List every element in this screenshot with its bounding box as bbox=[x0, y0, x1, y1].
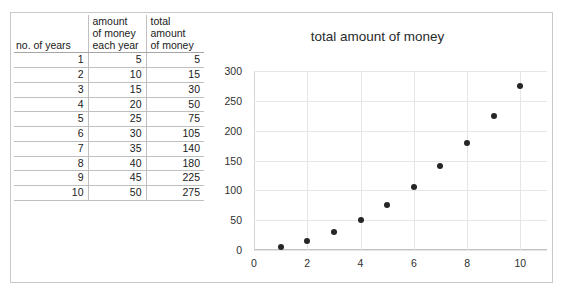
cell-total-amount: 50 bbox=[146, 97, 204, 112]
cell-amount-each-year: 15 bbox=[88, 82, 146, 97]
data-point bbox=[411, 184, 417, 190]
cell-years: 3 bbox=[14, 82, 88, 97]
x-axis-tick-label: 4 bbox=[358, 257, 364, 269]
y-axis-tick-label: 200 bbox=[208, 125, 242, 137]
cell-total-amount: 275 bbox=[146, 186, 204, 201]
gridline-horizontal bbox=[254, 250, 547, 251]
cell-total-amount: 180 bbox=[146, 156, 204, 171]
chart-title: total amount of money bbox=[204, 29, 551, 44]
scatter-chart: total amount of money 050100150200250300… bbox=[204, 15, 551, 282]
cell-amount-each-year: 5 bbox=[88, 53, 146, 68]
cell-total-amount: 140 bbox=[146, 141, 204, 156]
cell-years: 5 bbox=[14, 112, 88, 127]
header-line: total bbox=[151, 16, 201, 28]
cell-years: 10 bbox=[14, 186, 88, 201]
table-row: 9 45 225 bbox=[14, 171, 204, 186]
cell-amount-each-year: 35 bbox=[88, 141, 146, 156]
header-line: each year bbox=[93, 40, 142, 52]
y-axis-tick-label: 250 bbox=[208, 95, 242, 107]
cell-years: 2 bbox=[14, 68, 88, 83]
gridline-horizontal bbox=[254, 161, 547, 162]
x-axis-tick-label: 10 bbox=[515, 257, 527, 269]
gridline-horizontal bbox=[254, 220, 547, 221]
gridline-horizontal bbox=[254, 131, 547, 132]
y-axis-tick-label: 300 bbox=[208, 65, 242, 77]
table-header-row: no. of years amount of money each year t… bbox=[14, 15, 204, 53]
x-axis-tick-label: 0 bbox=[251, 257, 257, 269]
plot-area: 0501001502002503000246810 bbox=[254, 71, 547, 250]
cell-years: 9 bbox=[14, 171, 88, 186]
gridline-vertical bbox=[307, 71, 308, 250]
cell-years: 8 bbox=[14, 156, 88, 171]
data-point bbox=[517, 83, 523, 89]
x-axis-tick-label: 2 bbox=[304, 257, 310, 269]
cell-years: 4 bbox=[14, 97, 88, 112]
data-point bbox=[491, 113, 497, 119]
gridline-horizontal bbox=[254, 71, 547, 72]
table-row: 7 35 140 bbox=[14, 141, 204, 156]
table-row: 8 40 180 bbox=[14, 156, 204, 171]
cell-amount-each-year: 50 bbox=[88, 186, 146, 201]
cell-amount-each-year: 45 bbox=[88, 171, 146, 186]
cell-total-amount: 30 bbox=[146, 82, 204, 97]
gridline-vertical bbox=[414, 71, 415, 250]
header-line: of money bbox=[151, 40, 201, 52]
table-row: 4 20 50 bbox=[14, 97, 204, 112]
header-line: amount bbox=[93, 16, 142, 28]
data-point bbox=[437, 163, 443, 169]
cell-total-amount: 5 bbox=[146, 53, 204, 68]
data-point bbox=[384, 202, 390, 208]
table-row: 5 25 75 bbox=[14, 112, 204, 127]
table-body: 1 5 5 2 10 15 3 15 30 4 20 50 bbox=[14, 53, 204, 201]
data-point bbox=[331, 229, 337, 235]
table-row: 2 10 15 bbox=[14, 68, 204, 83]
data-point bbox=[304, 238, 310, 244]
data-point bbox=[278, 244, 284, 250]
header-line: amount bbox=[151, 28, 201, 40]
cell-amount-each-year: 20 bbox=[88, 97, 146, 112]
cell-years: 7 bbox=[14, 141, 88, 156]
data-table-container: no. of years amount of money each year t… bbox=[14, 15, 204, 267]
cell-total-amount: 105 bbox=[146, 127, 204, 142]
y-axis-tick-label: 50 bbox=[208, 214, 242, 226]
cell-years: 6 bbox=[14, 127, 88, 142]
table-row: 1 5 5 bbox=[14, 53, 204, 68]
cell-amount-each-year: 10 bbox=[88, 68, 146, 83]
x-axis-tick-label: 6 bbox=[411, 257, 417, 269]
x-axis-tick-label: 8 bbox=[464, 257, 470, 269]
table-row: 3 15 30 bbox=[14, 82, 204, 97]
y-axis-tick-label: 100 bbox=[208, 184, 242, 196]
table-row: 6 30 105 bbox=[14, 127, 204, 142]
gridline-horizontal bbox=[254, 190, 547, 191]
y-axis-tick-label: 150 bbox=[208, 155, 242, 167]
gridline-vertical bbox=[467, 71, 468, 250]
column-header-years: no. of years bbox=[14, 15, 88, 53]
worksheet-panel: no. of years amount of money each year t… bbox=[10, 12, 553, 283]
cell-total-amount: 15 bbox=[146, 68, 204, 83]
column-header-total-amount: total amount of money bbox=[146, 15, 204, 53]
cell-total-amount: 75 bbox=[146, 112, 204, 127]
data-point bbox=[464, 140, 470, 146]
y-axis-tick-label: 0 bbox=[208, 244, 242, 256]
cell-years: 1 bbox=[14, 53, 88, 68]
table-header: no. of years amount of money each year t… bbox=[14, 15, 204, 53]
money-data-table: no. of years amount of money each year t… bbox=[14, 15, 204, 201]
header-line: of money bbox=[93, 28, 142, 40]
cell-amount-each-year: 40 bbox=[88, 156, 146, 171]
cell-total-amount: 225 bbox=[146, 171, 204, 186]
cell-amount-each-year: 30 bbox=[88, 127, 146, 142]
header-line: no. of years bbox=[16, 40, 84, 52]
table-row: 10 50 275 bbox=[14, 186, 204, 201]
cell-amount-each-year: 25 bbox=[88, 112, 146, 127]
column-header-amount-each-year: amount of money each year bbox=[88, 15, 146, 53]
gridline-vertical bbox=[520, 71, 521, 250]
data-point bbox=[358, 217, 364, 223]
gridline-horizontal bbox=[254, 101, 547, 102]
